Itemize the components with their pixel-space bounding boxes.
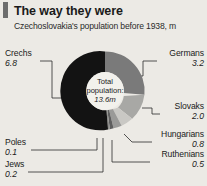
callout-jews-name: Jews [5,159,24,169]
callout-ruthenians-value: 0.5 [162,159,204,169]
callout-slovaks: Slovaks 2.0 [175,101,204,121]
callout-poles: Poles 0.1 [5,137,26,157]
callout-hungarians-value: 0.8 [161,139,204,149]
donut-hole [86,72,124,110]
callout-slovaks-value: 2.0 [175,111,204,121]
callout-jews: Jews 0.2 [5,159,24,179]
leader-czechs [40,61,62,98]
leader-poles [31,138,97,150]
callout-poles-value: 0.1 [5,147,26,157]
callout-germans: Germans 3.2 [169,48,204,68]
callout-slovaks-name: Slovaks [175,101,204,111]
chart-figure: The way they were Czechoslovakia's popul… [0,0,207,186]
leader-jews [28,138,103,172]
callout-czechs-value: 6.8 [5,58,32,68]
callout-germans-name: Germans [169,48,204,58]
callout-ruthenians: Ruthenians 0.5 [162,149,204,169]
page-title: The way they were [14,4,123,18]
chart-area: Total population: 13.6m Crechs 6.8 Poles… [0,34,207,186]
economist-marker [3,2,8,18]
callout-czechs-name: Crechs [5,48,32,58]
callout-czechs: Crechs 6.8 [5,48,32,68]
donut-chart [60,46,150,136]
callout-hungarians-name: Hungarians [161,129,204,139]
callout-hungarians: Hungarians 0.8 [161,129,204,149]
callout-germans-value: 3.2 [169,58,204,68]
callout-jews-value: 0.2 [5,169,24,179]
callout-ruthenians-name: Ruthenians [162,149,204,159]
leader-ruthenians [112,140,150,162]
chart-subtitle: Czechoslovakia's population before 1938,… [14,21,176,31]
callout-poles-name: Poles [5,137,26,147]
